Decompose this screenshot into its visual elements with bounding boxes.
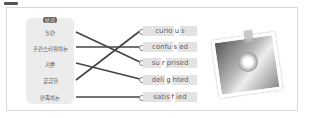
blank-letter[interactable]: u bbox=[174, 26, 180, 36]
english-word-3: surprised bbox=[143, 58, 197, 68]
blank-letter[interactable]: r bbox=[161, 58, 166, 68]
flowers-image bbox=[238, 52, 258, 72]
english-word-5: satisfied bbox=[143, 92, 197, 102]
line-curious bbox=[76, 31, 140, 80]
blank-letter[interactable]: g bbox=[165, 75, 171, 85]
blank-letter[interactable]: s bbox=[173, 42, 179, 52]
english-word-1: curious bbox=[143, 26, 197, 36]
english-word-4: delighted bbox=[143, 75, 197, 85]
tape-decoration bbox=[243, 29, 254, 42]
english-word-2: confused bbox=[143, 42, 197, 52]
line-delighted bbox=[76, 63, 140, 79]
blank-letter[interactable]: f bbox=[171, 92, 175, 102]
